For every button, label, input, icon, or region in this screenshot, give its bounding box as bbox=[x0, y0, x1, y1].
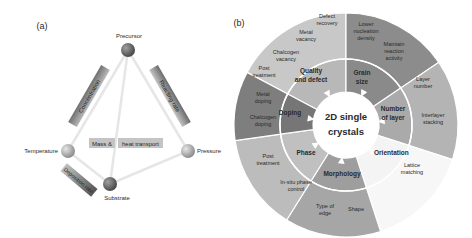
svg-text:vacancy: vacancy bbox=[296, 36, 316, 42]
panel-a-label: (a) bbox=[37, 21, 48, 31]
svg-text:Layer: Layer bbox=[416, 76, 430, 82]
substrate-sphere bbox=[103, 177, 117, 191]
temperature-label: Temperature bbox=[24, 148, 58, 154]
panel-b-label: (b) bbox=[234, 18, 245, 28]
svg-text:matching: matching bbox=[401, 169, 423, 175]
svg-text:heat transport: heat transport bbox=[122, 141, 159, 147]
quality-label-2: and defect bbox=[295, 76, 328, 83]
substrate-label: Substrate bbox=[104, 195, 130, 201]
center-circle bbox=[313, 92, 379, 158]
svg-text:Deposition rate: Deposition rate bbox=[63, 166, 95, 194]
morphology-label: Morphology bbox=[323, 170, 361, 178]
triangle-edges bbox=[68, 50, 188, 184]
svg-text:reaction: reaction bbox=[384, 48, 404, 54]
precursor-label: Precursor bbox=[116, 33, 142, 39]
pressure-sphere bbox=[181, 144, 195, 158]
figure-canvas: (a) Concentration Reacting rate Depositi… bbox=[0, 0, 472, 238]
svg-text:Chalcogen: Chalcogen bbox=[250, 114, 276, 120]
svg-text:Lattice: Lattice bbox=[404, 162, 420, 168]
svg-text:control: control bbox=[288, 186, 305, 192]
svg-text:stacking: stacking bbox=[423, 119, 443, 125]
layer-label-2: of layer bbox=[381, 114, 405, 122]
svg-text:Concentration: Concentration bbox=[77, 79, 101, 114]
svg-text:nucleation: nucleation bbox=[353, 28, 378, 34]
svg-text:Interlayer: Interlayer bbox=[422, 112, 445, 118]
svg-text:vacancy: vacancy bbox=[276, 56, 296, 62]
temperature-sphere bbox=[61, 144, 75, 158]
svg-text:doping: doping bbox=[255, 121, 272, 127]
svg-text:treatment: treatment bbox=[252, 72, 276, 78]
svg-text:treatment: treatment bbox=[256, 160, 280, 166]
svg-text:doping: doping bbox=[255, 98, 272, 104]
quality-label-1: Quality bbox=[300, 67, 322, 75]
svg-text:Post: Post bbox=[262, 153, 273, 159]
svg-text:recovery: recovery bbox=[316, 20, 337, 26]
svg-text:Defect: Defect bbox=[319, 13, 335, 19]
svg-text:Metal: Metal bbox=[256, 91, 269, 97]
svg-text:Post: Post bbox=[258, 65, 269, 71]
svg-text:Maintain: Maintain bbox=[384, 41, 405, 47]
panel-b: (b) 2D single crystals Quality and defec… bbox=[234, 13, 459, 237]
grain-label-1: Grain bbox=[354, 69, 371, 76]
svg-text:activity: activity bbox=[386, 55, 403, 61]
doping-label: Doping bbox=[279, 109, 301, 117]
svg-text:Metal: Metal bbox=[299, 29, 312, 35]
svg-text:Chalcogen: Chalcogen bbox=[273, 49, 299, 55]
precursor-sphere bbox=[121, 43, 135, 57]
svg-text:Type of: Type of bbox=[316, 203, 335, 209]
orientation-label: Orientation bbox=[374, 149, 409, 156]
mass-heat-transport-label: Mass & heat transport bbox=[89, 138, 163, 148]
pressure-label: Pressure bbox=[197, 148, 222, 154]
svg-text:Lower: Lower bbox=[359, 21, 374, 27]
center-title-line1: 2D single bbox=[325, 111, 367, 122]
phase-label: Phase bbox=[296, 149, 316, 156]
layer-label-1: Number bbox=[381, 105, 406, 112]
svg-text:edge: edge bbox=[319, 210, 331, 216]
svg-text:Mass &: Mass & bbox=[92, 141, 112, 147]
grain-label-2: size bbox=[356, 78, 369, 85]
svg-text:Shape: Shape bbox=[348, 206, 364, 212]
center-title-line2: crystals bbox=[328, 126, 364, 137]
panel-a: (a) Concentration Reacting rate Depositi… bbox=[24, 21, 221, 201]
svg-text:In-situ phase: In-situ phase bbox=[280, 179, 312, 185]
svg-text:density: density bbox=[357, 35, 375, 41]
svg-text:number: number bbox=[414, 83, 433, 89]
